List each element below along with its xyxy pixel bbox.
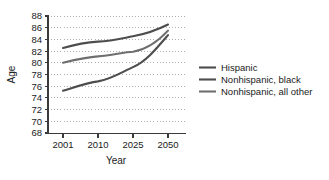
x-tick-label-2001: 2001 (52, 139, 73, 150)
x-tick-label-2050: 2050 (157, 139, 178, 150)
legend-label-nonhispanic-black: Nonhispanic, black (221, 74, 301, 85)
y-tick-label-76: 76 (31, 81, 42, 92)
x-tick-label-2010: 2010 (87, 139, 108, 150)
y-tick-label-86: 86 (31, 22, 42, 33)
y-tick-label-72: 72 (31, 104, 42, 115)
y-tick-labels: 88 86 84 82 80 78 76 74 72 70 68 (31, 10, 42, 138)
y-tick-label-74: 74 (31, 92, 42, 103)
y-tick-label-88: 88 (31, 10, 42, 21)
legend-label-nonhispanic-all-other: Nonhispanic, all other (221, 86, 312, 97)
y-tick-label-78: 78 (31, 69, 42, 80)
x-axis-title: Year (106, 155, 127, 166)
chart-svg: 88 86 84 82 80 78 76 74 72 70 68 2001 20… (0, 0, 329, 180)
line-chart-figure: 88 86 84 82 80 78 76 74 72 70 68 2001 20… (0, 0, 329, 180)
x-tick-label-2025: 2025 (122, 139, 143, 150)
y-axis-title: Age (6, 65, 17, 83)
y-tick-label-68: 68 (31, 127, 42, 138)
y-tick-label-84: 84 (31, 34, 42, 45)
y-tick-label-82: 82 (31, 46, 42, 57)
y-tick-label-70: 70 (31, 116, 42, 127)
legend-label-hispanic: Hispanic (221, 62, 258, 73)
y-tick-label-80: 80 (31, 57, 42, 68)
